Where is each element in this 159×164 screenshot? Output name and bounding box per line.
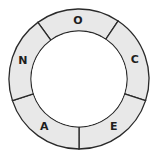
ring-center — [32, 32, 127, 127]
segment-label-e: E — [110, 120, 118, 133]
segment-label-a: A — [40, 120, 49, 133]
ocean-ring-diagram: O C E A N — [0, 0, 159, 164]
segment-label-c: C — [131, 53, 139, 66]
ring-segments — [9, 9, 149, 149]
segment-label-o: O — [73, 14, 82, 27]
segment-label-n: N — [18, 54, 27, 67]
